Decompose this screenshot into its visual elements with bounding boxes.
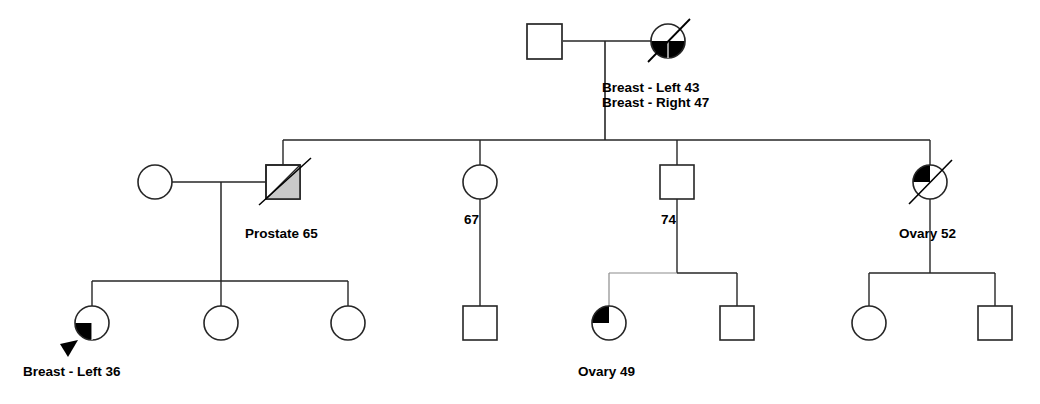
male-square-symbol	[660, 165, 694, 199]
person-gen3-breast-left-36[interactable]	[60, 306, 109, 357]
person-gen1-father[interactable]	[527, 24, 562, 59]
male-square-symbol	[527, 24, 562, 59]
pedigree-canvas: Breast - Left 43 Breast - Right 47	[0, 0, 1040, 404]
gen3-sibshipD-lines	[869, 199, 995, 306]
gen2-age-label-74: 74	[661, 212, 677, 227]
person-gen3-child-2[interactable]	[204, 306, 238, 340]
female-circle-symbol	[331, 306, 365, 340]
female-circle-symbol	[204, 306, 238, 340]
person-gen1-mother[interactable]	[648, 19, 690, 62]
gen2-age-label-67: 67	[464, 212, 479, 227]
male-square-symbol	[463, 306, 497, 340]
gen3-sibshipA-lines	[92, 281, 348, 306]
person-gen2-ovary-52[interactable]	[909, 160, 952, 204]
male-square-symbol	[720, 306, 754, 340]
gen1-mother-label-line2: Breast - Right 47	[602, 95, 709, 110]
female-circle-symbol	[852, 306, 886, 340]
person-gen3-child-7[interactable]	[852, 306, 886, 340]
person-gen2-brother-74[interactable]	[660, 165, 694, 199]
gen3-ovary-49-label: Ovary 49	[578, 364, 635, 379]
gen1-mother-label-line1: Breast - Left 43	[602, 80, 700, 95]
proband-arrow-icon	[60, 340, 78, 357]
female-circle-symbol	[138, 165, 172, 199]
person-gen2-prostate-65[interactable]	[259, 158, 311, 205]
person-gen3-child-6[interactable]	[720, 306, 754, 340]
gen2-ovary-52-label: Ovary 52	[899, 226, 956, 241]
gen2-prostate-label: Prostate 65	[245, 226, 318, 241]
person-gen3-ovary-49[interactable]	[592, 306, 626, 340]
pedigree-chart: Breast - Left 43 Breast - Right 47	[0, 0, 1040, 404]
gen3-breast-36-label: Breast - Left 36	[23, 364, 121, 379]
person-gen3-child-3[interactable]	[331, 306, 365, 340]
person-gen3-child-4[interactable]	[463, 306, 497, 340]
female-circle-symbol	[463, 165, 497, 199]
male-square-symbol	[978, 306, 1012, 340]
person-gen3-child-8[interactable]	[978, 306, 1012, 340]
gen2-sibship-lines	[283, 140, 930, 165]
person-gen2-sister-67[interactable]	[463, 165, 497, 199]
person-gen2-spouse-female[interactable]	[138, 165, 172, 199]
